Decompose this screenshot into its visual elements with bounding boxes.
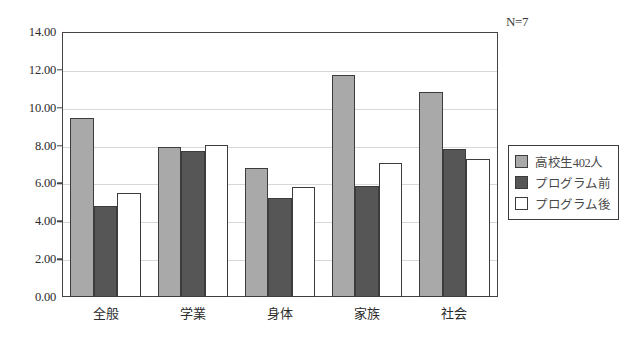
legend-label: 高校生402人 [535,152,603,171]
bar [443,149,467,297]
bar [181,151,205,297]
bar-group [70,32,141,297]
y-tick-label: 6.00 [0,176,56,191]
bar [419,92,443,297]
y-tick-label: 8.00 [0,138,56,153]
bar-group [419,32,490,297]
y-tick-label: 4.00 [0,214,56,229]
bar [245,168,269,297]
legend-swatch [515,155,528,168]
legend-item: プログラム後 [515,193,611,214]
legend-label: プログラム後 [535,194,611,213]
y-tick-label: 14.00 [0,25,56,40]
y-tick-label: 2.00 [0,252,56,267]
y-tick-label: 0.00 [0,290,56,305]
legend-swatch [515,176,528,189]
y-tick-mark [57,258,63,259]
y-tick-mark [57,107,63,108]
bar-group [332,32,403,297]
bar [205,145,229,297]
bar [158,147,182,297]
y-tick-label: 12.00 [0,62,56,77]
x-tick-label: 家族 [354,303,380,322]
bar [268,198,292,297]
x-tick-label: 社会 [441,303,467,322]
bar [117,193,141,297]
y-tick-mark [57,183,63,184]
bar [94,206,118,297]
legend-swatch [515,197,528,210]
x-tick-label: 全般 [93,303,119,322]
x-tick-label: 学業 [180,303,206,322]
y-tick-mark [57,221,63,222]
bar-chart-figure: N=7 0.002.004.006.008.0010.0012.0014.00 … [0,0,633,343]
x-tick-label: 身体 [267,303,293,322]
bar-group [158,32,229,297]
legend-label: プログラム前 [535,173,611,192]
bar [292,187,316,297]
chart-legend: 高校生402人プログラム前プログラム後 [508,145,619,220]
bar [466,159,490,297]
y-tick-mark [57,69,63,70]
bar [70,118,94,297]
legend-item: 高校生402人 [515,151,611,172]
bar [332,75,356,297]
bar [355,186,379,297]
bar [379,163,403,297]
y-tick-mark [57,145,63,146]
y-tick-label: 10.00 [0,100,56,115]
legend-item: プログラム前 [515,172,611,193]
sample-size-annotation: N=7 [506,14,528,30]
bar-group [245,32,316,297]
